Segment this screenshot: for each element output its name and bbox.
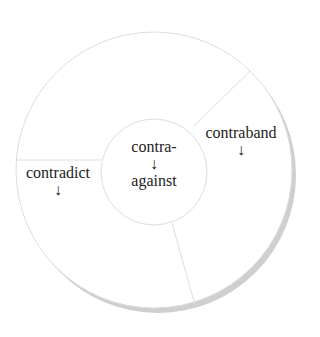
segment-contraband: contraband ↓ [200, 124, 282, 158]
down-arrow-icon: ↓ [20, 182, 96, 198]
segment-word: contraband [205, 124, 276, 141]
down-arrow-icon: ↓ [200, 142, 282, 158]
center-label: contra- ↓ against [114, 138, 194, 190]
prefix-text: contra- [131, 138, 176, 155]
segment-contradict: contradict ↓ [20, 164, 96, 198]
segment-word: contradict [26, 164, 90, 181]
meaning-text: against [131, 172, 176, 189]
down-arrow-icon: ↓ [114, 156, 194, 172]
